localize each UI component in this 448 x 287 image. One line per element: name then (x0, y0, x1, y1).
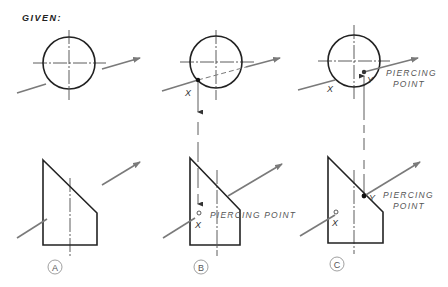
given-label: GIVEN: (22, 13, 62, 23)
line-segment-entry (17, 84, 46, 93)
panel-c: X Y PIERCING POINT X Y PIERCING POINT C (298, 25, 437, 271)
point-y-label: Y (367, 75, 374, 85)
point-x-label: X (184, 88, 192, 98)
line-arrow-exit (246, 58, 280, 67)
panel-a-front-view (17, 160, 140, 258)
piercing-label-line2: POINT (393, 201, 425, 211)
panel-b-front-view: X PIERCING POINT (163, 158, 296, 256)
panel-a-top-view (17, 30, 140, 100)
panel-c-top-view: X Y PIERCING POINT (298, 25, 437, 100)
point-x-marker (196, 78, 200, 82)
piercing-label-line2: POINT (393, 79, 425, 89)
piercing-point-label: PIERCING POINT (210, 210, 296, 220)
point-y-marker (362, 194, 367, 199)
panel-b-top-view: X (162, 30, 280, 100)
point-x-label: X (331, 218, 339, 228)
line-segment-entry (300, 215, 335, 236)
point-x-marker (334, 210, 338, 214)
panel-c-front-view: X Y PIERCING POINT (300, 157, 434, 254)
line-arrow-exit (102, 58, 140, 69)
piercing-label-line1: PIERCING (386, 68, 437, 78)
point-x-marker (197, 211, 201, 215)
piercing-label-line1: PIERCING (383, 190, 434, 200)
panel-b: X X PIERCING POINT B (162, 30, 296, 274)
point-y-marker (362, 70, 366, 74)
line-segment-visible (162, 80, 198, 91)
panel-label-c: C (334, 260, 341, 270)
line-arrow-exit (102, 162, 140, 185)
point-x-label: X (326, 84, 334, 94)
panel-label-a: A (52, 263, 58, 273)
line-arrow-exit (228, 164, 282, 196)
piercing-point-diagram: GIVEN: A X (0, 0, 448, 287)
point-y-label: Y (369, 193, 376, 203)
panel-a: A (17, 30, 140, 274)
point-x-label: X (194, 220, 202, 230)
wedge-front-outline (190, 158, 240, 245)
panel-label-b: B (198, 263, 204, 273)
